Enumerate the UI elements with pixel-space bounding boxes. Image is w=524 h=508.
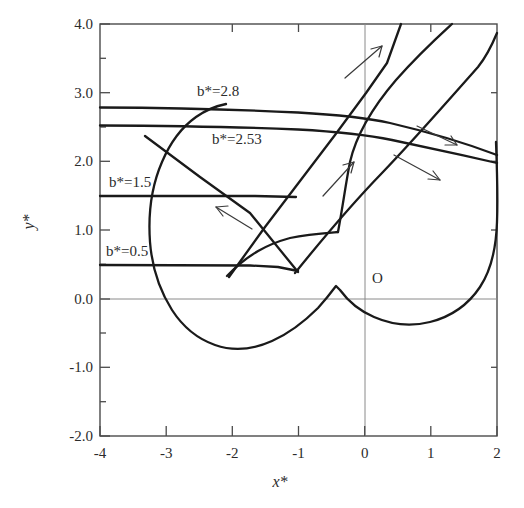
curve-label-b-2-8: b*=2.8 [197,83,239,99]
curve-b-0-5 [100,265,298,271]
curve-cardioid [150,104,498,349]
curve-label-b-0-5: b*=0.5 [106,243,148,259]
x-tick-label-0: 0 [361,445,369,461]
y-tick-label-neg2: -2.0 [69,428,93,444]
y-tick-label-0: 0.0 [74,291,93,307]
x-tick-label-neg3: -3 [160,445,173,461]
y-tick-label-3: 3.0 [74,85,93,101]
plot-frame [100,24,497,436]
curve-b-2-53 [100,126,497,164]
x-tick-label-2: 2 [493,445,501,461]
x-tick-label-neg4: -4 [94,445,107,461]
direction-arrow-down-right-upper [417,126,457,145]
direction-arrow-up-right-mid [323,162,354,196]
y-axis-title: y* [20,214,38,231]
x-axis-major-ticks [100,426,497,436]
x-axis-title: x* [271,473,287,490]
phase-plot-svg: 4.0 3.0 2.0 1.0 0.0 -1.0 -2.0 -4 -3 -2 -… [0,0,524,508]
origin-label: O [372,270,383,286]
curve-rising-separatrix-outer [229,24,401,277]
curve-b-1-5 [100,196,296,197]
curve-label-b-2-53: b*=2.53 [212,131,262,147]
figure-root: 4.0 3.0 2.0 1.0 0.0 -1.0 -2.0 -4 -3 -2 -… [0,0,524,508]
direction-arrow-up-right-top [345,46,382,78]
curve-label-b-1-5: b*=1.5 [109,174,151,190]
x-tick-label-neg1: -1 [292,445,305,461]
y-tick-label-4: 4.0 [74,16,93,32]
curve-descending-separatrix [145,136,298,272]
y-tick-label-neg1: -1.0 [69,359,93,375]
x-tick-label-neg2: -2 [226,445,239,461]
x-tick-label-1: 1 [427,445,435,461]
direction-arrow-down-right-lower [394,155,440,180]
y-tick-label-2: 2.0 [74,153,93,169]
curve-rising-separatrix-inner [295,33,497,273]
y-axis-major-ticks [100,24,110,436]
y-tick-label-1: 1.0 [74,222,93,238]
